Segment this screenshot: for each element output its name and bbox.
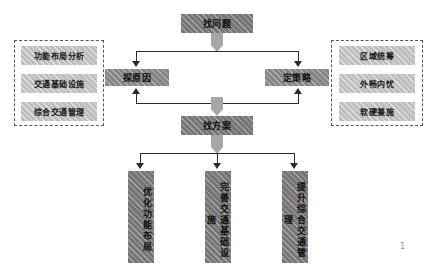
left-panel-item-2[interactable]: 交通基础设施 — [21, 74, 97, 93]
node-step1-label: 找问题 — [203, 17, 232, 30]
node-step2-right[interactable]: 定策略 — [265, 69, 329, 86]
right-panel-item-2[interactable]: 外畅内忧 — [339, 74, 415, 93]
left-panel-item-3[interactable]: 综合交通管理 — [21, 102, 97, 121]
arrowhead-from-step2-left — [132, 88, 140, 94]
node-step3[interactable]: 找方案 — [181, 116, 253, 135]
node-step3-label: 找方案 — [203, 119, 232, 132]
node-step2-left[interactable]: 探原因 — [105, 69, 169, 86]
node-step1[interactable]: 找问题 — [181, 14, 253, 33]
left-panel-item-3-label: 综合交通管理 — [34, 106, 85, 117]
right-panel-item-2-label: 外畅内忧 — [360, 78, 394, 89]
arrowhead-to-outcome-1 — [136, 163, 144, 169]
diagram-canvas: 功能布局分析 交通基础设施 综合交通管理 区域统筹 外畅内忧 软硬兼施 找问题 … — [0, 0, 437, 275]
spine-arrow-step3-to-fan — [211, 135, 223, 154]
node-outcome-2-label: 完善交通基础设施 — [205, 177, 231, 263]
node-outcome-3[interactable]: 提升综合交通管理 — [282, 171, 308, 263]
right-panel-item-3-label: 软硬兼施 — [360, 106, 394, 117]
node-step2-right-label: 定策略 — [283, 71, 312, 84]
arrowhead-from-step2-right — [294, 88, 302, 94]
arrowhead-to-outcome-3 — [290, 163, 298, 169]
left-panel-item-2-label: 交通基础设施 — [34, 78, 85, 89]
node-step2-left-label: 探原因 — [123, 71, 152, 84]
spine-arrow-merge-to-step3 — [211, 97, 223, 116]
connector-split-bar — [136, 51, 299, 52]
right-panel-item-3[interactable]: 软硬兼施 — [339, 102, 415, 121]
node-outcome-2[interactable]: 完善交通基础设施 — [205, 171, 231, 263]
arrowhead-to-outcome-2 — [213, 163, 221, 169]
node-outcome-1-label: 优化功能布局 — [141, 187, 154, 253]
arrowhead-to-step2-right — [294, 61, 302, 67]
node-outcome-3-label: 提升综合交通管理 — [282, 177, 308, 263]
right-panel-item-1[interactable]: 区域统筹 — [339, 46, 415, 65]
left-panel-item-1-label: 功能布局分析 — [34, 50, 85, 61]
page-mark: 1 — [400, 243, 405, 251]
spine-arrow-step1-to-split — [211, 33, 223, 52]
right-panel-item-1-label: 区域统筹 — [360, 50, 394, 61]
left-panel-item-1[interactable]: 功能布局分析 — [21, 46, 97, 65]
node-outcome-1[interactable]: 优化功能布局 — [128, 171, 154, 263]
arrowhead-to-step2-left — [132, 61, 140, 67]
